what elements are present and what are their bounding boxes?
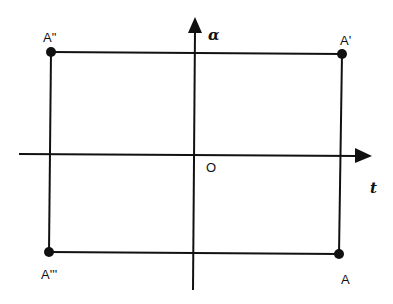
rect-left-edge xyxy=(49,52,51,252)
rect-right-edge xyxy=(339,54,342,254)
horizontal-axis xyxy=(19,148,372,163)
horizontal-axis-label: t xyxy=(370,179,377,197)
vertical-axis xyxy=(188,17,202,290)
point-a xyxy=(334,249,344,259)
origin-label: O xyxy=(206,160,216,175)
point-a-triple-prime xyxy=(44,247,54,257)
label-a-prime: A' xyxy=(340,33,351,48)
point-a-double-prime xyxy=(46,47,56,57)
arrow-up-icon xyxy=(188,17,202,33)
rect-top-edge xyxy=(51,52,342,54)
label-a: A xyxy=(341,272,350,287)
point-a-prime xyxy=(337,49,347,59)
diagram-canvas: A" A' A''' A O α t xyxy=(0,0,393,304)
label-a-triple-prime: A''' xyxy=(41,267,57,282)
label-a-double-prime: A" xyxy=(43,30,57,45)
arrow-right-icon xyxy=(355,148,372,163)
vertical-axis-label: α xyxy=(208,26,220,44)
